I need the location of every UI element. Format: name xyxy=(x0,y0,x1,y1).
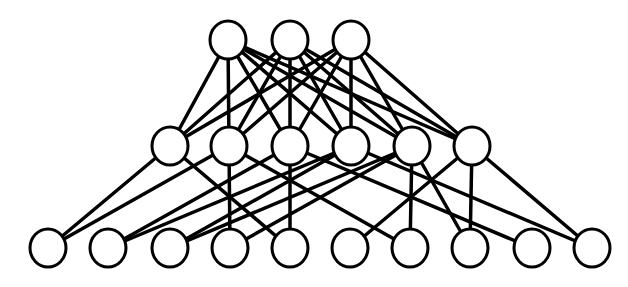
node-middle-1 xyxy=(152,127,188,165)
node-bottom-2 xyxy=(90,229,126,267)
node-bottom-3 xyxy=(152,229,188,267)
node-bottom-8 xyxy=(452,229,488,267)
node-top-2 xyxy=(272,21,308,59)
node-bottom-1 xyxy=(30,229,66,267)
node-top-3 xyxy=(333,21,369,59)
node-bottom-9 xyxy=(514,229,550,267)
node-middle-2 xyxy=(211,127,247,165)
node-bottom-10 xyxy=(574,229,610,267)
node-bottom-7 xyxy=(392,229,428,267)
node-middle-4 xyxy=(333,127,369,165)
node-middle-5 xyxy=(394,127,430,165)
network-diagram xyxy=(0,0,628,287)
node-bottom-5 xyxy=(272,229,308,267)
node-bottom-6 xyxy=(332,229,368,267)
edges xyxy=(48,40,592,248)
node-top-1 xyxy=(210,21,246,59)
node-middle-6 xyxy=(454,127,490,165)
node-bottom-4 xyxy=(212,229,248,267)
node-middle-3 xyxy=(272,127,308,165)
